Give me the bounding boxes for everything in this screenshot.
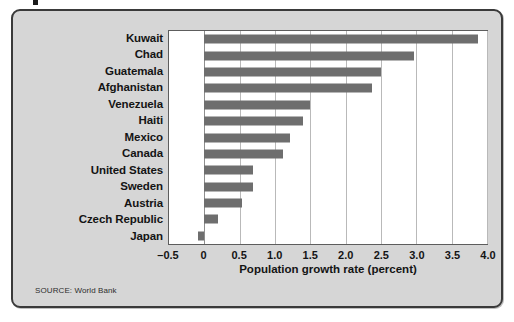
bar — [204, 67, 381, 76]
bar — [204, 117, 303, 126]
category-label: Kuwait — [28, 30, 167, 47]
chart-figure-panel: KuwaitChadGuatemalaAfghanistanVenezuelaH… — [11, 9, 503, 308]
bar-row — [169, 129, 487, 145]
x-tick-label: 2.5 — [374, 249, 389, 261]
bar — [204, 199, 241, 208]
bar — [204, 215, 218, 224]
bar-row — [169, 97, 487, 113]
category-label: Canada — [28, 146, 167, 163]
x-tick-label: 1.5 — [303, 249, 318, 261]
x-tick-label: 4.0 — [480, 249, 495, 261]
cropped-text-artifact — [33, 0, 38, 5]
source-note: SOURCE: World Bank — [35, 286, 117, 295]
bar-row — [169, 211, 487, 227]
bar-row — [169, 47, 487, 63]
bar — [204, 51, 414, 60]
x-tick-label: 3.0 — [409, 249, 424, 261]
category-label: Venezuela — [28, 96, 167, 113]
bar — [204, 149, 282, 158]
bar — [204, 35, 477, 44]
x-tick-label: 1.0 — [267, 249, 282, 261]
category-label: Chad — [28, 47, 167, 64]
x-axis-ticks: –0.500.51.01.52.02.53.03.54.0 — [168, 245, 488, 265]
bar — [198, 231, 204, 240]
category-axis-labels: KuwaitChadGuatemalaAfghanistanVenezuelaH… — [28, 30, 167, 245]
category-label: Austria — [28, 195, 167, 212]
bar-row — [169, 80, 487, 96]
bar — [204, 100, 310, 109]
x-axis-title: Population growth rate (percent) — [168, 263, 488, 275]
bar-row — [169, 31, 487, 47]
bar — [204, 182, 253, 191]
x-tick-label: 0.5 — [231, 249, 246, 261]
bar-row — [169, 64, 487, 80]
x-tick-label: 3.5 — [445, 249, 460, 261]
category-label: Afghanistan — [28, 80, 167, 97]
bar-row — [169, 228, 487, 244]
category-label: Japan — [28, 228, 167, 245]
bar-row — [169, 146, 487, 162]
category-label: United States — [28, 162, 167, 179]
category-label: Guatemala — [28, 63, 167, 80]
x-tick-label: 0 — [200, 249, 206, 261]
bar-row — [169, 179, 487, 195]
category-label: Czech Republic — [28, 212, 167, 229]
bar-row — [169, 162, 487, 178]
x-tick-label: 2.0 — [338, 249, 353, 261]
x-tick-label: –0.5 — [157, 249, 178, 261]
plot-area — [168, 30, 488, 245]
bar — [204, 84, 371, 93]
bar-row — [169, 113, 487, 129]
bar — [204, 133, 290, 142]
category-label: Haiti — [28, 113, 167, 130]
gridline — [487, 31, 488, 244]
bar — [204, 166, 253, 175]
category-label: Sweden — [28, 179, 167, 196]
bar-series — [169, 31, 487, 244]
bar-row — [169, 195, 487, 211]
category-label: Mexico — [28, 129, 167, 146]
